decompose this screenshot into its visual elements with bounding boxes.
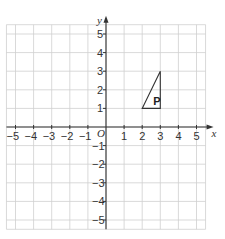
y-tick-label: 5 (97, 28, 103, 40)
y-tick-label: 3 (97, 65, 103, 77)
y-tick-label: −1 (92, 140, 105, 152)
x-axis-label: x (211, 127, 217, 139)
coordinate-grid: xyO−5−4−3−2−11234554321−1−2−3−4−5P (0, 0, 225, 239)
origin-label: O (97, 127, 105, 139)
x-tick-label: −4 (25, 130, 38, 142)
x-tick-label: 2 (139, 130, 145, 142)
y-axis-label: y (96, 14, 102, 26)
y-arrow-icon (104, 16, 109, 23)
shape-label: P (153, 95, 160, 107)
x-tick-label: −3 (43, 130, 56, 142)
x-tick-label: 3 (157, 130, 163, 142)
y-tick-label: 4 (97, 47, 103, 59)
y-tick-label: −5 (92, 214, 105, 226)
x-tick-label: −1 (79, 130, 92, 142)
x-tick-label: 4 (175, 130, 181, 142)
y-tick-label: 2 (97, 84, 103, 96)
x-tick-label: 1 (121, 130, 127, 142)
y-tick-label: 1 (97, 102, 103, 114)
x-tick-label: −2 (61, 130, 74, 142)
y-tick-label: −4 (92, 195, 105, 207)
x-tick-label: −5 (7, 130, 20, 142)
y-tick-label: −3 (92, 177, 105, 189)
x-tick-label: 5 (194, 130, 200, 142)
y-tick-label: −2 (92, 158, 105, 170)
